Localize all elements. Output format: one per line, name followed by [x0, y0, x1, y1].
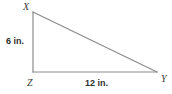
- triangle-figure: X Z Y 6 in. 12 in.: [0, 0, 172, 94]
- triangle-side-hypotenuse: [33, 12, 157, 72]
- vertex-label-z: Z: [27, 78, 33, 88]
- measurement-label-horizontal-leg: 12 in.: [85, 79, 108, 88]
- vertex-label-x: X: [23, 2, 29, 12]
- measurement-label-vertical-leg: 6 in.: [6, 37, 24, 46]
- vertex-label-y: Y: [161, 74, 167, 84]
